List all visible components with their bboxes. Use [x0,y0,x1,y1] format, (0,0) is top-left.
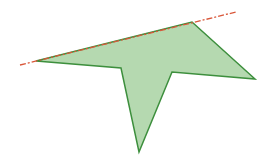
concave-polygon [36,22,255,152]
figure-canvas [0,0,262,164]
